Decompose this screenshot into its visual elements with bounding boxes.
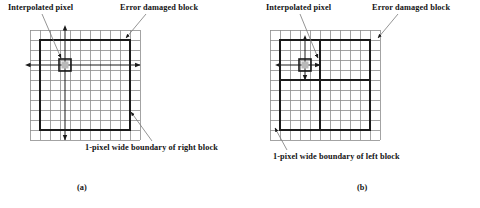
diagram-a-canvas	[0, 0, 240, 208]
error-damaged-block-outline	[280, 40, 370, 130]
pixel-grid	[30, 30, 140, 140]
interpolated-pixel-fill	[62, 62, 69, 69]
error-damaged-block-outline	[40, 40, 130, 130]
leader-error-damaged-block	[378, 14, 398, 38]
diagram-panel-b: Interpolated pixel Error damaged block 1…	[240, 0, 480, 208]
leader-error-damaged-block	[126, 14, 146, 38]
pixel-grid	[270, 30, 380, 140]
figure-root: Interpolated pixel Error damaged block 1…	[0, 0, 480, 208]
leader-boundary	[275, 128, 287, 150]
leader-interpolated-pixel	[300, 14, 318, 58]
leader-interpolated-pixel	[42, 14, 61, 58]
interpolated-pixel-fill	[302, 62, 309, 69]
diagram-panel-a: Interpolated pixel Error damaged block 1…	[0, 0, 240, 208]
diagram-b-canvas	[240, 0, 480, 208]
leader-boundary	[131, 112, 152, 141]
